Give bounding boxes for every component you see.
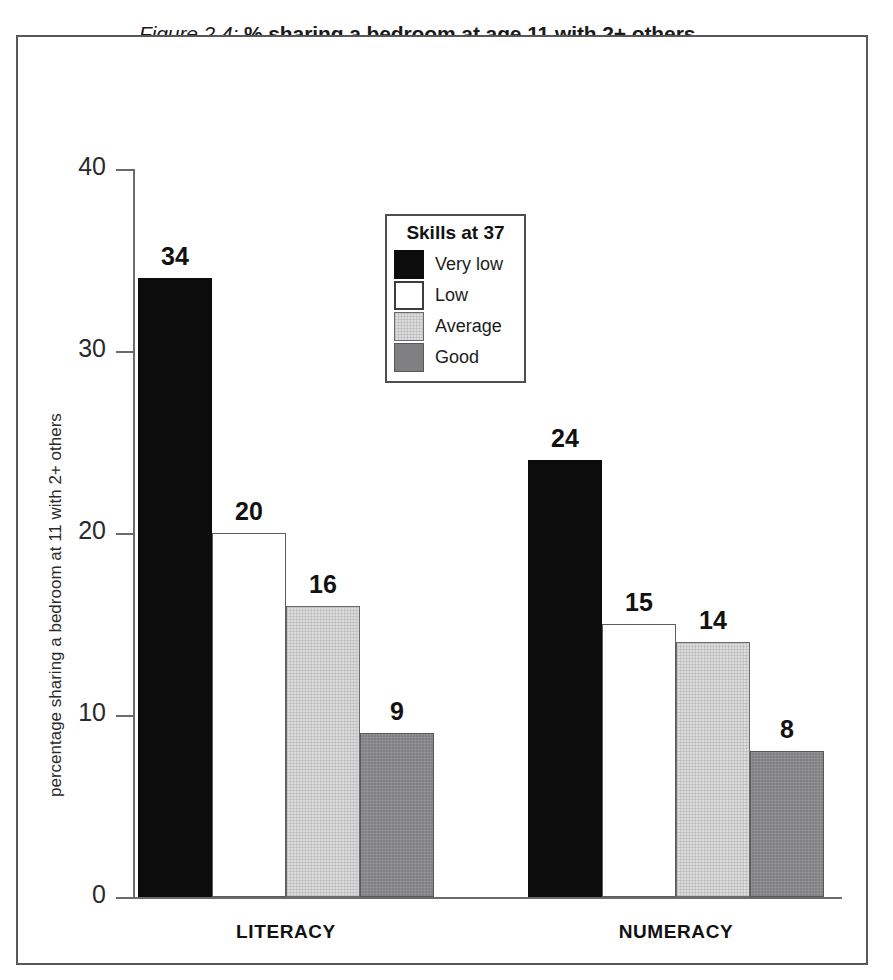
- bar-value-literacy-average: 16: [286, 572, 360, 597]
- y-axis-title: percentage sharing a bedroom at 11 with …: [46, 317, 66, 797]
- legend-item-average[interactable]: Average: [387, 311, 524, 342]
- bar-literacy-very-low: [138, 278, 212, 897]
- bar-literacy-good: [360, 733, 434, 897]
- figure-frame: 0 10 20 30 40 34 20 16 9: [16, 35, 868, 965]
- legend-swatch-good: [394, 343, 424, 372]
- legend-item-good[interactable]: Good: [387, 342, 524, 373]
- bar-value-literacy-good: 9: [360, 699, 434, 724]
- y-axis-tick-30: 30: [116, 351, 133, 353]
- legend-item-very-low[interactable]: Very low: [387, 249, 524, 280]
- y-axis-tick-10: 10: [116, 715, 133, 717]
- y-axis-tick-0: 0: [116, 897, 133, 899]
- x-axis-label-numeracy: NUMERACY: [528, 921, 824, 943]
- y-axis-line: [133, 169, 135, 898]
- legend: Skills at 37 Very low Low Average Good: [385, 214, 526, 383]
- legend-label-low: Low: [435, 286, 468, 304]
- bar-literacy-average: [286, 606, 360, 897]
- legend-title: Skills at 37: [387, 223, 524, 244]
- bar-numeracy-very-low: [528, 460, 602, 897]
- legend-item-low[interactable]: Low: [387, 280, 524, 311]
- legend-swatch-average: [394, 312, 424, 341]
- bar-value-literacy-very-low: 34: [138, 244, 212, 269]
- y-axis-tick-label-40: 40: [78, 154, 106, 179]
- bar-value-numeracy-good: 8: [750, 717, 824, 742]
- legend-label-very-low: Very low: [435, 255, 503, 273]
- figure-container: Figure 2.4: % sharing a bedroom at age 1…: [0, 0, 893, 980]
- y-axis-tick-20: 20: [116, 533, 133, 535]
- bar-numeracy-low: [602, 624, 676, 897]
- bar-value-literacy-low: 20: [212, 499, 286, 524]
- x-axis-label-literacy: LITERACY: [138, 921, 434, 943]
- bar-value-numeracy-very-low: 24: [528, 426, 602, 451]
- bar-value-numeracy-average: 14: [676, 608, 750, 633]
- bar-numeracy-average: [676, 642, 750, 897]
- legend-label-good: Good: [435, 348, 479, 366]
- bar-numeracy-good: [750, 751, 824, 897]
- bar-value-numeracy-low: 15: [602, 590, 676, 615]
- y-axis-tick-label-10: 10: [78, 700, 106, 725]
- legend-swatch-very-low: [394, 250, 424, 279]
- y-axis-tick-label-30: 30: [78, 336, 106, 361]
- legend-swatch-low: [394, 281, 424, 310]
- bar-literacy-low: [212, 533, 286, 897]
- x-axis-line: [133, 897, 842, 899]
- y-axis-tick-label-0: 0: [92, 882, 106, 907]
- y-axis-tick-40: 40: [116, 169, 133, 171]
- legend-label-average: Average: [435, 317, 502, 335]
- y-axis-tick-label-20: 20: [78, 518, 106, 543]
